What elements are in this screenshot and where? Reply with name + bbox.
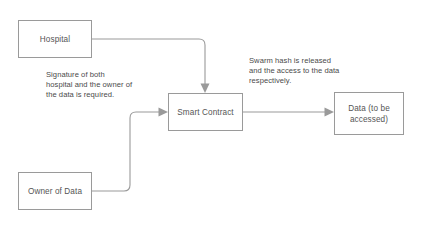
node-smart-contract-label: Smart Contract — [174, 107, 236, 118]
annotation-swarm-note: Swarm hash is released and the access to… — [249, 56, 367, 87]
node-smart-contract[interactable]: Smart Contract — [168, 93, 243, 131]
node-hospital[interactable]: Hospital — [18, 20, 92, 58]
edge-smart-contract-to-data — [243, 108, 334, 117]
edge-owner-to-smart-contract — [92, 108, 168, 192]
node-data-accessed[interactable]: Data (to be accessed) — [334, 92, 404, 135]
node-owner-of-data-label: Owner of Data — [25, 186, 85, 197]
node-data-accessed-label: Data (to be accessed) — [345, 103, 393, 125]
node-hospital-label: Hospital — [37, 34, 73, 45]
node-owner-of-data[interactable]: Owner of Data — [18, 172, 92, 210]
annotation-signature-note: Signature of both hospital and the owner… — [46, 70, 168, 101]
diagram-canvas: Hospital Owner of Data Smart Contract Da… — [0, 0, 425, 228]
